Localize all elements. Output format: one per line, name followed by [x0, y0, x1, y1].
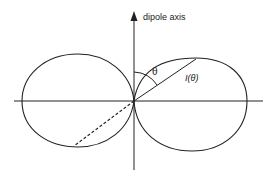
arrow-up-icon [131, 11, 138, 21]
dashed-radius-line [74, 101, 134, 146]
radius-label: I(θ) [185, 73, 198, 83]
dipole-diagram: dipole axis θ I(θ) [0, 0, 270, 181]
angle-label: θ [152, 66, 158, 77]
right-lobe [134, 58, 247, 151]
dipole-axis-label: dipole axis [143, 12, 186, 22]
